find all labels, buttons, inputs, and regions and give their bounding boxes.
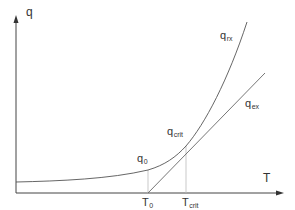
- q-rx-label: qrx: [220, 30, 232, 41]
- q-rx-base: q: [220, 29, 226, 41]
- q0-label: q0: [137, 153, 148, 164]
- q-crit-label: qcrit: [167, 126, 183, 137]
- q0-sub: 0: [144, 158, 148, 165]
- q-crit-sub: crit: [174, 131, 183, 138]
- q-crit-base: q: [167, 125, 173, 137]
- x-axis-label: T: [263, 172, 270, 184]
- q-ex-base: q: [245, 97, 251, 109]
- tcrit-label: Tcrit: [182, 197, 199, 208]
- tcrit-base: T: [182, 196, 189, 208]
- q-ex-line: [148, 73, 265, 193]
- x-axis-arrow-icon: [276, 191, 284, 196]
- tcrit-sub: crit: [189, 202, 198, 209]
- q-rx-sub: rx: [227, 35, 233, 42]
- q0-base: q: [137, 152, 143, 164]
- q-ex-sub: ex: [252, 103, 259, 110]
- y-axis-arrow-icon: [14, 15, 19, 23]
- diagram-canvas: q T qrx qex qcrit q0 T0 Tcrit: [0, 0, 295, 210]
- q-rx-curve: [16, 22, 247, 182]
- t0-sub: 0: [149, 202, 153, 209]
- y-axis-label: q: [26, 6, 33, 18]
- t0-label: T0: [142, 197, 153, 208]
- t0-base: T: [142, 196, 149, 208]
- q-ex-label: qex: [245, 98, 259, 109]
